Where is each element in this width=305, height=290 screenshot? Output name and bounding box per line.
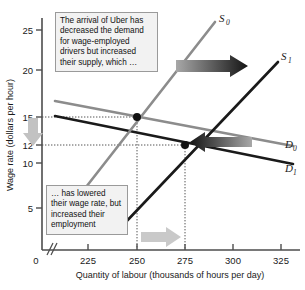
x-tick-label-225: 225 [80,255,96,266]
x-axis-title: Quantity of labour (thousands of hours p… [76,270,265,280]
employment-rise-arrow-shape [141,227,181,247]
employment-rise-arrow [141,227,181,247]
y-tick-label-25: 25 [22,25,33,36]
curve-sublabel-D1: 1 [293,168,297,177]
curve-sublabel-D0: 0 [293,144,297,153]
annotation-bottom: … has lowered their wage rate, but incre… [46,185,128,235]
y-axis-title: Wage rate (dollars per hour) [5,79,15,191]
supply-demand-chart: 25 20 15 12 10 5 225 250 275 300 325 0 Q… [0,0,305,290]
initial-equilibrium-point [133,113,141,121]
x-tick-label-250: 250 [129,255,145,266]
x-axis-ticks: 225 250 275 300 325 0 [33,244,289,266]
curve-sublabel-S0: 0 [226,18,230,27]
y-tick-label-10: 10 [22,158,33,169]
new-equilibrium-point [181,141,189,149]
x-tick-label-300: 300 [225,255,241,266]
x-tick-label-275: 275 [177,255,193,266]
curve-label-S1: S [281,50,287,62]
y-tick-label-20: 20 [22,65,33,76]
annotation-top: The arrival of Uber has decreased the de… [55,12,158,72]
curve-label-S0: S [219,12,225,24]
y-tick-label-5: 5 [28,203,33,214]
curve-sublabel-S1: 1 [288,56,292,65]
curve-label-D0: D [284,138,293,150]
curve-label-D1: D [284,162,293,174]
x-tick-label-325: 325 [273,255,289,266]
origin-label: 0 [33,255,38,266]
